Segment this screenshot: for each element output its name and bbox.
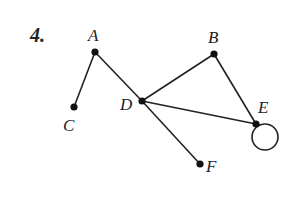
node-b	[210, 50, 217, 57]
node-label-c: C	[63, 116, 75, 135]
node-label-f: F	[205, 157, 217, 176]
edge-b-e	[214, 54, 256, 124]
node-label-e: E	[257, 98, 269, 117]
edges-group	[74, 52, 256, 164]
loops-group	[252, 124, 278, 150]
node-e	[252, 120, 259, 127]
edge-d-b	[142, 54, 214, 101]
node-a	[91, 48, 98, 55]
edge-a-c	[74, 52, 95, 107]
node-d	[138, 97, 145, 104]
node-f	[196, 160, 203, 167]
labels-group: ABCDEF	[63, 26, 269, 176]
loop-e	[252, 124, 278, 150]
nodes-group	[70, 48, 259, 167]
graph-diagram: 4. ABCDEF	[0, 0, 290, 212]
problem-number: 4.	[29, 24, 45, 46]
node-label-a: A	[87, 26, 99, 45]
edge-a-d	[95, 52, 142, 101]
node-c	[70, 103, 77, 110]
node-label-b: B	[208, 28, 219, 47]
node-label-d: D	[119, 95, 133, 114]
